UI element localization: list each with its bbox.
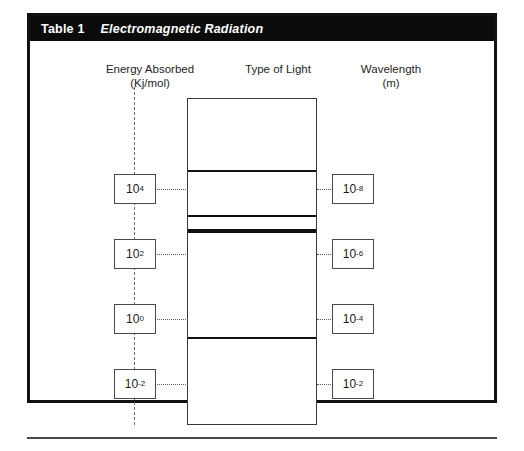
column-heading-energy-absorbed: Energy Absorbed (Kj/mol) <box>80 62 220 90</box>
connector-left-4 <box>157 384 188 385</box>
wavelength-value-box: 10-4 <box>332 304 374 334</box>
table-frame: Table 1 Electromagnetic Radiation Energy… <box>27 13 497 403</box>
page-title: Electromagnetic Radiation <box>101 22 264 36</box>
connector-left-2 <box>157 254 188 255</box>
connector-right-3 <box>317 319 333 320</box>
connector-left-1 <box>157 189 188 190</box>
bottom-divider-rule <box>27 437 497 439</box>
energy-value-box: 10-2 <box>114 369 156 399</box>
energy-value-box: 100 <box>114 304 156 334</box>
wavelength-value-box: 10-6 <box>332 239 374 269</box>
spectrum-band-3 <box>188 229 316 233</box>
connector-left-3 <box>157 319 188 320</box>
wavelength-value-box: 10-2 <box>332 369 374 399</box>
column-heading-wavelength: Wavelength (m) <box>326 62 456 90</box>
spectrum-band-2 <box>188 215 316 217</box>
energy-value-box: 102 <box>114 239 156 269</box>
diagram-body: Energy Absorbed (Kj/mol) Type of Light W… <box>30 41 494 400</box>
spectrum-band-1 <box>188 170 316 172</box>
type-of-light-column <box>187 98 317 425</box>
spectrum-band-4 <box>188 337 316 339</box>
connector-right-2 <box>317 254 333 255</box>
table-title-bar: Table 1 Electromagnetic Radiation <box>30 16 494 41</box>
table-number-label: Table 1 <box>41 22 85 36</box>
energy-value-box: 104 <box>114 174 156 204</box>
connector-right-4 <box>317 384 333 385</box>
connector-right-1 <box>317 189 333 190</box>
wavelength-value-box: 10-8 <box>332 174 374 204</box>
